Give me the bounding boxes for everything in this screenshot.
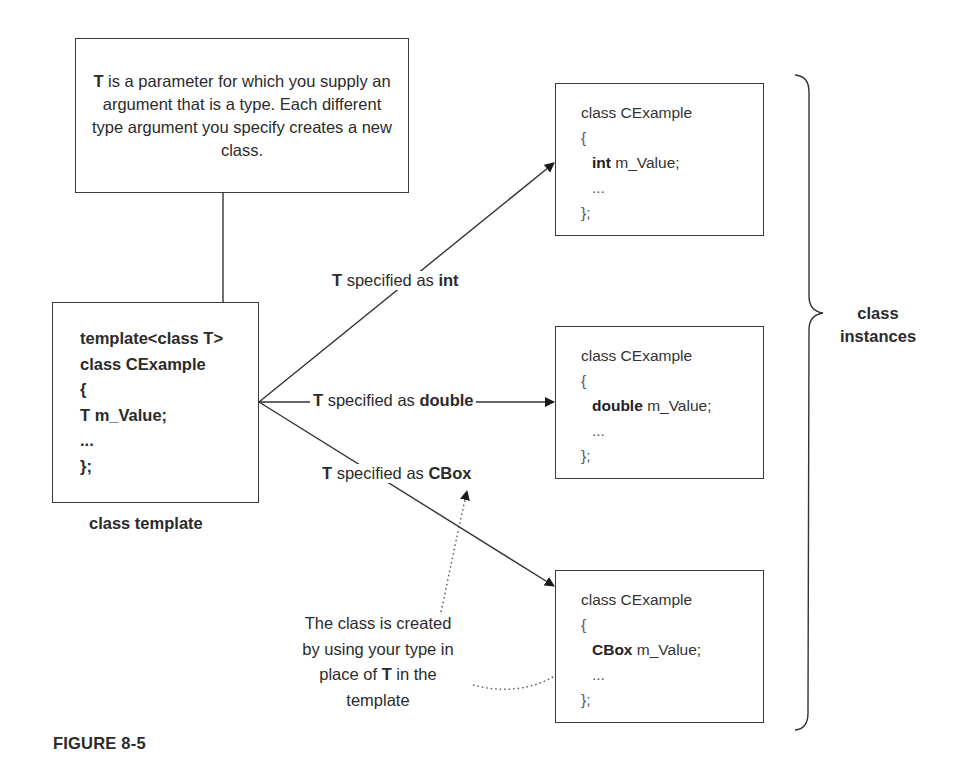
instance-box-double: class CExample { double m_Value; ... }; bbox=[555, 326, 764, 479]
explanation-text: The class is created by using your type … bbox=[278, 611, 478, 713]
label-type: CBox bbox=[428, 464, 471, 482]
code-line: }; bbox=[581, 443, 711, 468]
figure-caption: FIGURE 8-5 bbox=[53, 734, 146, 753]
class-template-caption: class template bbox=[89, 514, 203, 533]
code-line: template<class T> bbox=[80, 326, 223, 352]
code-line: ... bbox=[80, 428, 223, 454]
template-code: template<class T> class CExample { T m_V… bbox=[80, 326, 223, 479]
note-text: is a parameter for which you supply an a… bbox=[92, 72, 392, 159]
explain-text: in the bbox=[392, 665, 437, 683]
code-line: { bbox=[581, 612, 701, 637]
member-name: m_Value; bbox=[615, 154, 679, 171]
instance-box-int: class CExample { int m_Value; ... }; bbox=[555, 83, 764, 236]
member-name: m_Value; bbox=[647, 397, 711, 414]
label-bold-t: T bbox=[332, 271, 342, 289]
class-template-box: template<class T> class CExample { T m_V… bbox=[52, 302, 259, 503]
instance-code: class CExample { CBox m_Value; ... }; bbox=[581, 587, 701, 712]
arrow-to-cbox-instance bbox=[259, 402, 554, 586]
explain-line: place of T in the bbox=[278, 662, 478, 688]
label-bold-t: T bbox=[322, 464, 332, 482]
explain-line: by using your type in bbox=[278, 637, 478, 663]
code-line-member: CBox m_Value; bbox=[581, 637, 701, 662]
explain-bold-t: T bbox=[382, 665, 392, 683]
label-text: specified as bbox=[332, 464, 428, 482]
explain-line: template bbox=[278, 688, 478, 714]
code-line: }; bbox=[581, 687, 701, 712]
explain-line: The class is created bbox=[278, 611, 478, 637]
code-line-member: int m_Value; bbox=[581, 150, 692, 175]
label-specified-int: T specified as int bbox=[329, 271, 462, 290]
code-line: T m_Value; bbox=[80, 403, 223, 429]
type-parameter-note: T is a parameter for which you supply an… bbox=[75, 38, 409, 193]
instance-code: class CExample { int m_Value; ... }; bbox=[581, 100, 692, 225]
dotted-arrow-to-cbox-label bbox=[441, 491, 467, 612]
label-text: specified as bbox=[323, 391, 419, 409]
label-bold-t: T bbox=[313, 391, 323, 409]
member-type: double bbox=[592, 397, 643, 414]
code-line: class CExample bbox=[80, 352, 223, 378]
label-type: int bbox=[438, 271, 458, 289]
code-line: ... bbox=[581, 175, 692, 200]
member-type: CBox bbox=[592, 641, 632, 658]
brace-label-line: instances bbox=[838, 325, 918, 348]
code-line: class CExample bbox=[581, 587, 701, 612]
note-bold-t: T bbox=[93, 72, 103, 90]
explain-text: place of bbox=[319, 665, 381, 683]
label-specified-double: T specified as double bbox=[310, 391, 476, 410]
curly-brace bbox=[795, 75, 823, 730]
code-line: class CExample bbox=[581, 343, 711, 368]
brace-label-line: class bbox=[838, 302, 918, 325]
code-line: { bbox=[80, 377, 223, 403]
code-line: { bbox=[581, 368, 711, 393]
instance-box-cbox: class CExample { CBox m_Value; ... }; bbox=[555, 570, 764, 723]
code-line: }; bbox=[581, 200, 692, 225]
code-line: }; bbox=[80, 454, 223, 480]
instance-code: class CExample { double m_Value; ... }; bbox=[581, 343, 711, 468]
class-instances-label: class instances bbox=[838, 302, 918, 348]
member-name: m_Value; bbox=[637, 641, 701, 658]
code-line-member: double m_Value; bbox=[581, 393, 711, 418]
code-line: ... bbox=[581, 662, 701, 687]
member-type: int bbox=[592, 154, 611, 171]
label-specified-cbox: T specified as CBox bbox=[319, 464, 475, 483]
label-type: double bbox=[419, 391, 473, 409]
label-text: specified as bbox=[342, 271, 438, 289]
code-line: ... bbox=[581, 418, 711, 443]
code-line: { bbox=[581, 125, 692, 150]
code-line: class CExample bbox=[581, 100, 692, 125]
